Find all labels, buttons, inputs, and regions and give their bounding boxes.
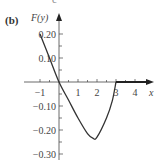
y-tick-label: −0.10 — [33, 101, 56, 112]
x-tick-label: 4 — [133, 87, 138, 98]
y-axis-arrow-icon — [56, 13, 62, 21]
chart: xF(y) −112340.200.10−0.10−0.20−0.30 — [0, 0, 157, 164]
x-tick-label: −1 — [35, 87, 46, 98]
y-tick-label: −0.20 — [33, 125, 56, 136]
y-tick-label: 0.10 — [39, 53, 57, 64]
ticks: −112340.200.10−0.10−0.20−0.30 — [33, 29, 138, 160]
x-tick-label: 1 — [76, 87, 81, 98]
x-axis-label: x — [148, 87, 154, 98]
x-tick-label: 2 — [95, 87, 100, 98]
y-axis-label: F(y) — [30, 12, 49, 24]
y-tick-label: −0.30 — [33, 149, 56, 160]
